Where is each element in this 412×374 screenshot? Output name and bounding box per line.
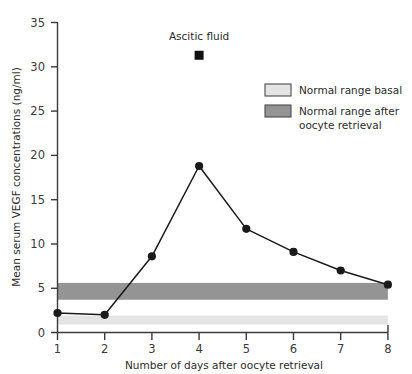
- x-axis-title: Number of days after oocyte retrieval: [125, 359, 323, 371]
- legend-label-normal-range-basal: Normal range basal: [299, 84, 402, 96]
- data-point-day-8: [384, 281, 392, 289]
- data-point-day-7: [337, 266, 345, 274]
- legend-label-normal-range-after-line1: Normal range after: [299, 105, 400, 117]
- legend-label-normal-range-after-line2: oocyte retrieval: [299, 119, 382, 131]
- data-point-day-3: [148, 252, 156, 260]
- y-tick-label-25: 25: [30, 104, 45, 118]
- y-tick-label-20: 20: [30, 148, 45, 162]
- legend-swatch-normal-range-after-oocyte-retrieval: [265, 105, 291, 117]
- x-tick-label-1: 1: [54, 342, 61, 356]
- vegf-line-chart: 35 30 25 20 15 10 5 0 1 2 3 4 5 6: [0, 0, 412, 374]
- data-point-day-2: [101, 311, 109, 319]
- data-point-day-6: [289, 248, 297, 256]
- y-axis-title: Mean serum VEGF concentrations (ng/ml): [10, 67, 22, 286]
- x-tick-label-5: 5: [243, 342, 250, 356]
- legend-swatch-normal-range-basal: [265, 84, 291, 96]
- data-point-day-4: [195, 162, 203, 170]
- y-tick-label-0: 0: [38, 326, 45, 340]
- chart-canvas: 35 30 25 20 15 10 5 0 1 2 3 4 5 6: [0, 0, 412, 374]
- ascitic-fluid-square-marker: [195, 51, 204, 60]
- y-tick-label-15: 15: [30, 193, 45, 207]
- x-tick-label-3: 3: [148, 342, 155, 356]
- ascitic-fluid-label: Ascitic fluid: [169, 30, 229, 42]
- y-tick-label-5: 5: [38, 281, 45, 295]
- x-tick-label-2: 2: [101, 342, 108, 356]
- x-tick-label-6: 6: [290, 342, 297, 356]
- y-tick-label-35: 35: [30, 16, 45, 30]
- data-point-day-5: [242, 225, 250, 233]
- x-tick-label-7: 7: [337, 342, 344, 356]
- data-point-day-1: [53, 309, 61, 317]
- band-normal-range-after-oocyte-retrieval: [58, 283, 388, 300]
- x-tick-label-8: 8: [384, 342, 391, 356]
- y-tick-label-30: 30: [30, 60, 45, 74]
- y-tick-label-10: 10: [30, 237, 45, 251]
- x-tick-label-4: 4: [195, 342, 202, 356]
